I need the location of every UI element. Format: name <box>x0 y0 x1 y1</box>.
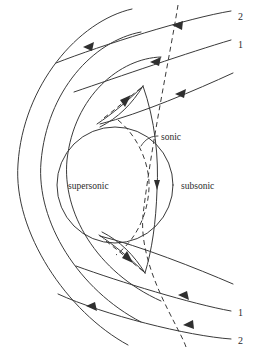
streamline-lower-2-arrow-icon <box>183 320 194 329</box>
streamline-upper-inner-arrow-icon <box>175 89 186 98</box>
streamline-lower-outer-left-group <box>86 302 97 311</box>
streamline-upper-2-arrow-icon <box>172 21 183 30</box>
label-subsonic: subsonic <box>181 181 214 191</box>
label-supersonic: supersonic <box>68 181 109 191</box>
streamlines-upper-group <box>56 11 233 124</box>
streamline-upper-inner <box>100 73 233 124</box>
label-streamline-bottom-outer: 2 <box>238 335 243 346</box>
bow-arc-outer-lower-arrow-icon <box>86 302 97 311</box>
streamline-lower-1 <box>76 266 231 311</box>
triple-point-upper-group <box>97 86 143 127</box>
bow-arc-inner <box>67 57 161 301</box>
label-streamline-top-inner: 1 <box>238 39 243 50</box>
streamline-upper-2 <box>56 11 231 63</box>
lower-shock-flow-arrow-icon <box>122 251 133 263</box>
mach-stem-flow-arrow-icon <box>154 180 160 190</box>
label-sonic: sonic <box>161 132 181 142</box>
bow-shock-arc-group <box>18 9 161 345</box>
streamline-lower-2 <box>58 294 231 339</box>
label-streamline-bottom-inner: 1 <box>238 307 243 318</box>
transonic-flow-diagram: supersonic subsonic sonic 2 1 1 2 <box>0 0 262 355</box>
sonic-branch-upper <box>101 88 141 120</box>
label-streamline-top-outer: 2 <box>238 11 243 22</box>
diagram-canvas: supersonic subsonic sonic 2 1 1 2 <box>0 0 262 355</box>
mach-stem-shock <box>143 86 157 273</box>
bow-arc-outer <box>18 9 132 345</box>
mach-stem-group <box>143 86 160 273</box>
